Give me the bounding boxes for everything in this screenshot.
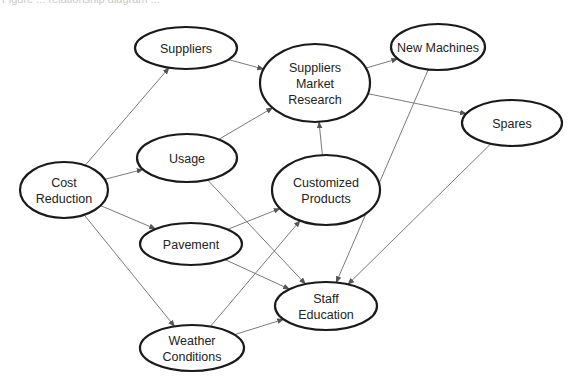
edge-cost-reduction-to-usage [105, 169, 143, 179]
node-label: Market [296, 77, 335, 91]
edge-spares-to-staff-education [348, 144, 491, 284]
node-label: New Machines [397, 41, 479, 55]
node-label: Products [301, 192, 350, 206]
node-label: Usage [169, 152, 205, 166]
node-label: Pavement [163, 238, 220, 252]
cost-reduction-diagram: CostReductionSuppliersUsagePavementWeath… [0, 0, 579, 391]
node-label: Customized [293, 176, 359, 190]
node-label: Suppliers [289, 61, 341, 75]
node-cost-reduction: CostReduction [20, 162, 108, 218]
node-ellipse [140, 325, 244, 371]
edge-pavement-to-customized-products [228, 208, 280, 229]
node-suppliers: Suppliers [135, 27, 237, 69]
node-label: Education [298, 308, 354, 322]
edge-suppliers-market-research-to-new-machines [366, 59, 398, 68]
node-weather-conditions: WeatherConditions [140, 325, 244, 371]
edge-suppliers-market-research-to-spares [368, 94, 466, 114]
node-ellipse [275, 282, 377, 330]
edge-customized-products-to-suppliers-market-research [319, 122, 322, 155]
node-ellipse [20, 162, 108, 218]
node-new-machines: New Machines [391, 24, 485, 70]
node-label: Reduction [36, 192, 92, 206]
node-usage: Usage [137, 134, 237, 182]
node-label: Conditions [162, 350, 221, 364]
node-pavement: Pavement [140, 223, 242, 265]
node-label: Suppliers [160, 42, 212, 56]
nodes-layer: CostReductionSuppliersUsagePavementWeath… [20, 24, 562, 371]
node-staff-education: StaffEducation [275, 282, 377, 330]
node-label: Weather [168, 334, 215, 348]
node-label: Spares [492, 117, 532, 131]
edge-cost-reduction-to-pavement [101, 206, 156, 229]
node-customized-products: CustomizedProducts [272, 155, 380, 225]
node-label: Staff [313, 292, 339, 306]
node-ellipse [272, 155, 380, 225]
node-label: Research [288, 93, 342, 107]
edge-suppliers-to-suppliers-market-research [229, 60, 264, 70]
node-label: Cost [51, 176, 77, 190]
node-suppliers-market-research: SuppliersMarketResearch [260, 44, 370, 122]
edge-weather-conditions-to-staff-education [234, 319, 283, 334]
edge-pavement-to-staff-education [225, 260, 290, 290]
edge-usage-to-suppliers-market-research [219, 108, 273, 140]
node-spares: Spares [462, 100, 562, 146]
